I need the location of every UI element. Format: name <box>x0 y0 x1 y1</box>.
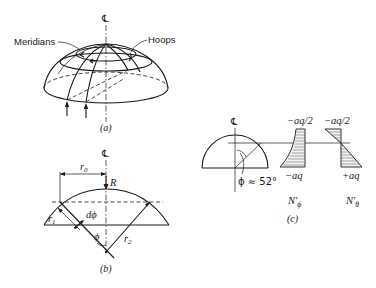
panel-b: ℄ r0 R r2 r1 dϕ ϕ (b) <box>44 148 169 275</box>
dphi-label: dϕ <box>86 209 97 220</box>
meridians-leader <box>58 42 80 50</box>
ntheta-bottom-label: +aq <box>342 170 360 181</box>
center-point <box>105 251 107 253</box>
radius-52deg <box>235 143 261 168</box>
nphi-bottom-label: −aq <box>285 170 303 181</box>
centerline-symbol-b: ℄ <box>101 148 109 159</box>
ntheta-top-label: −aq/2 <box>324 115 351 126</box>
hoops-label: Hoops <box>148 34 176 45</box>
caption-a: (a) <box>100 122 112 134</box>
R-label: R <box>109 177 117 188</box>
panel-a: ℄ Meridians Hoops <box>14 13 176 134</box>
angle-label: ϕ ≈ 52° <box>238 176 277 187</box>
dome-arc-b <box>44 189 169 225</box>
r0-label: r0 <box>80 161 88 174</box>
caption-c: (c) <box>287 213 299 225</box>
r2-label: r2 <box>124 233 132 246</box>
hoops-leader <box>131 40 147 52</box>
caption-b: (b) <box>100 263 112 275</box>
ntheta-diagram <box>325 129 362 167</box>
nphi-diagram <box>280 129 305 167</box>
angle-arc <box>237 150 246 157</box>
centerline-symbol-a: ℄ <box>101 13 109 24</box>
shell-diagram: ℄ Meridians Hoops <box>0 0 376 288</box>
panel-c: ℄ ϕ ≈ 52° −aq/2 −aq <box>202 115 362 225</box>
angle-leader <box>240 153 244 174</box>
phi-label: ϕ <box>94 231 100 242</box>
reaction-arrows <box>65 101 88 118</box>
r1-label: r1 <box>48 213 56 226</box>
centerline-symbol-c: ℄ <box>230 116 238 127</box>
ntheta-name: N′θ <box>345 195 359 209</box>
meridians-label: Meridians <box>14 36 55 47</box>
nphi-top-label: −aq/2 <box>287 115 314 126</box>
nphi-name: N′ϕ <box>287 195 301 209</box>
